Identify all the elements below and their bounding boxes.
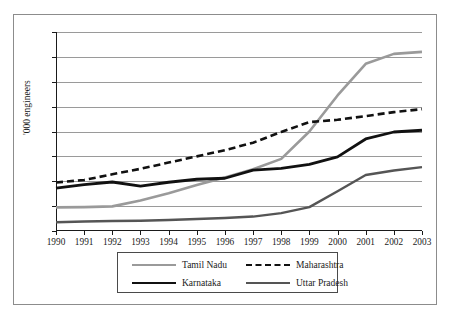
- legend-swatch-icon: [246, 282, 290, 284]
- series-line-maharashtra: [56, 109, 422, 182]
- y-axis-label: '000 engineers: [22, 80, 32, 135]
- x-tick-mark: [281, 231, 282, 235]
- gridline: [56, 82, 422, 83]
- series-line-uttar-pradesh: [56, 167, 422, 222]
- legend-label: Tamil Nadu: [182, 257, 227, 273]
- legend-label: Karnataka: [182, 275, 221, 291]
- gridline: [56, 32, 422, 33]
- x-tick-mark: [225, 231, 226, 235]
- gridline: [56, 132, 422, 133]
- x-tick-mark: [338, 231, 339, 235]
- x-tick-label: 2003: [406, 237, 438, 247]
- gridline: [56, 206, 422, 207]
- chart-figure: '000 engineers 0100200300400500600700800…: [0, 0, 450, 318]
- x-tick-mark: [422, 231, 423, 235]
- x-tick-mark: [169, 231, 170, 235]
- x-tick-mark: [84, 231, 85, 235]
- x-tick-mark: [253, 231, 254, 235]
- gridline: [56, 181, 422, 182]
- y-axis-line: [56, 32, 57, 231]
- plot-area: 0100200300400500600700800 19901991199219…: [56, 32, 422, 231]
- gridline: [56, 107, 422, 108]
- chart-legend: Tamil NaduMaharashtraKarnatakaUttar Prad…: [117, 252, 338, 293]
- legend-swatch-icon: [132, 282, 176, 284]
- x-tick-mark: [366, 231, 367, 235]
- legend-label: Maharashtra: [296, 257, 343, 273]
- x-tick-mark: [197, 231, 198, 235]
- x-tick-mark: [112, 231, 113, 235]
- legend-label: Uttar Pradesh: [296, 275, 348, 291]
- series-line-karnataka: [56, 130, 422, 188]
- series-line-tamil-nadu: [56, 52, 422, 207]
- x-tick-mark: [309, 231, 310, 235]
- x-tick-mark: [56, 231, 57, 235]
- gridline: [56, 156, 422, 157]
- x-tick-mark: [140, 231, 141, 235]
- legend-swatch-icon: [132, 264, 176, 266]
- gridline: [56, 57, 422, 58]
- x-axis-line: [56, 230, 422, 231]
- x-tick-mark: [394, 231, 395, 235]
- legend-swatch-icon: [246, 264, 290, 266]
